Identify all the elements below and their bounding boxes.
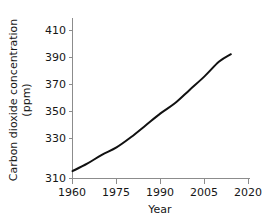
x-tick-label-2020: 2020 bbox=[234, 186, 262, 199]
y-tick-label-410: 410 bbox=[45, 24, 66, 37]
co2-trend-line bbox=[73, 54, 231, 171]
co2-concentration-chart: Carbon dioxide concentration (ppm) 410 3… bbox=[0, 0, 273, 222]
x-tick-label-1960: 1960 bbox=[58, 186, 86, 199]
chart-plot-area: Carbon dioxide concentration (ppm) 410 3… bbox=[0, 0, 273, 222]
y-tick-label-390: 390 bbox=[45, 51, 66, 64]
y-axis-title-line2: (ppm) bbox=[20, 83, 33, 116]
x-axis-title: Year bbox=[147, 203, 172, 216]
y-axis-title-line1: Carbon dioxide concentration bbox=[7, 19, 20, 182]
y-tick-label-370: 370 bbox=[45, 78, 66, 91]
y-tick-label-310: 310 bbox=[45, 172, 66, 185]
x-tick-label-2005: 2005 bbox=[190, 186, 218, 199]
y-tick-label-350: 350 bbox=[45, 105, 66, 118]
y-tick-label-330: 330 bbox=[45, 132, 66, 145]
x-tick-label-1990: 1990 bbox=[146, 186, 174, 199]
x-tick-label-1975: 1975 bbox=[102, 186, 130, 199]
